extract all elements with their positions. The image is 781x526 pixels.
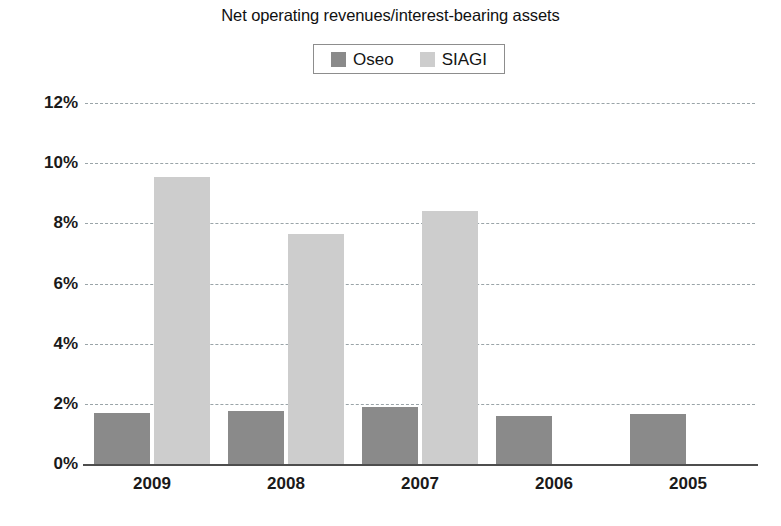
y-axis-tick-label: 12% <box>16 93 78 113</box>
bar-oseo-2006 <box>496 416 552 464</box>
legend-label-siagi: SIAGI <box>442 51 487 68</box>
y-axis-tick-label: 10% <box>16 153 78 173</box>
bars-layer <box>85 103 755 464</box>
x-axis-tick-label-2006: 2006 <box>535 474 573 494</box>
legend-label-oseo: Oseo <box>353 51 394 68</box>
bar-oseo-2009 <box>94 413 150 464</box>
x-axis-line <box>83 464 758 466</box>
legend-swatch-oseo <box>331 52 346 67</box>
x-axis-tick-label-2008: 2008 <box>267 474 305 494</box>
x-axis-tick-label-2009: 2009 <box>133 474 171 494</box>
legend-swatch-siagi <box>420 52 435 67</box>
bar-oseo-2007 <box>362 407 418 464</box>
y-axis: 0%2%4%6%8%10%12% <box>8 0 78 526</box>
chart-title: Net operating revenues/interest-bearing … <box>0 6 781 25</box>
bar-oseo-2008 <box>228 411 284 464</box>
x-axis: 20092008200720062005 <box>85 474 755 504</box>
y-axis-tick-label: 8% <box>16 213 78 233</box>
chart-legend: Oseo SIAGI <box>313 44 505 74</box>
y-axis-tick-label: 6% <box>16 274 78 294</box>
bar-siagi-2008 <box>288 234 344 464</box>
y-axis-tick-label: 2% <box>16 394 78 414</box>
bar-oseo-2005 <box>630 414 686 464</box>
legend-entry-oseo: Oseo <box>331 51 394 68</box>
y-axis-tick-label: 0% <box>16 454 78 474</box>
legend-entry-siagi: SIAGI <box>420 51 487 68</box>
y-axis-tick-label: 4% <box>16 334 78 354</box>
x-axis-tick-label-2007: 2007 <box>401 474 439 494</box>
x-axis-tick-label-2005: 2005 <box>669 474 707 494</box>
bar-siagi-2007 <box>422 211 478 464</box>
bar-siagi-2009 <box>154 177 210 464</box>
